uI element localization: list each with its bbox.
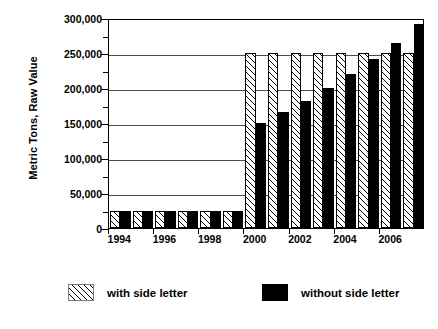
bar-group — [222, 20, 245, 228]
x-tick-mark — [108, 229, 109, 234]
legend-label: with side letter — [107, 287, 188, 299]
x-tick-mark — [198, 229, 199, 234]
x-tick-mark — [153, 229, 154, 234]
bar-group — [380, 20, 403, 228]
bar-without-side-letter-2004 — [346, 74, 356, 228]
bar-group — [199, 20, 222, 228]
bar-group — [402, 20, 425, 228]
bar-group — [312, 20, 335, 228]
bar-without-side-letter-2000 — [256, 123, 266, 228]
legend-label: without side letter — [301, 287, 399, 299]
bar-with-side-letter-1997 — [178, 211, 188, 229]
bar-without-side-letter-2002 — [301, 101, 311, 228]
bar-group — [109, 20, 132, 228]
x-tick-label: 2000 — [243, 233, 266, 245]
x-tick-label: 1998 — [198, 233, 221, 245]
x-tick-label: 2002 — [288, 233, 311, 245]
bar-group — [154, 20, 177, 228]
x-tick-mark — [289, 229, 290, 234]
bar-without-side-letter-2005 — [369, 59, 379, 228]
hatch-swatch-icon — [68, 284, 94, 301]
bar-group — [335, 20, 358, 228]
y-tick-label: 100,000 — [30, 153, 102, 165]
bar-without-side-letter-1995 — [143, 211, 153, 229]
bar-with-side-letter-1998 — [200, 211, 210, 229]
x-tick-label: 2004 — [333, 233, 356, 245]
bar-without-side-letter-1994 — [120, 211, 130, 229]
bar-without-side-letter-1999 — [233, 211, 243, 229]
x-tick-label: 2006 — [378, 233, 401, 245]
bar-without-side-letter-1997 — [188, 211, 198, 229]
y-tick-label: 50,000 — [30, 188, 102, 200]
bar-chart-figure: Metric Tons, Raw Value 050,000100,000150… — [0, 0, 438, 329]
y-tick-label: 200,000 — [30, 83, 102, 95]
y-tick-label: 300,000 — [30, 13, 102, 25]
bar-series-layer — [109, 20, 423, 228]
bar-with-side-letter-2002 — [291, 53, 301, 228]
bar-with-side-letter-1996 — [155, 211, 165, 229]
bar-with-side-letter-2006 — [381, 53, 391, 228]
bar-with-side-letter-1999 — [223, 211, 233, 229]
x-axis-labels: 1994199619982000200220042006 — [0, 233, 438, 249]
plot-area — [108, 19, 424, 229]
chart-legend: with side letter without side letter — [0, 284, 438, 316]
bar-group — [177, 20, 200, 228]
x-tick-mark — [243, 229, 244, 234]
bar-without-side-letter-2006 — [391, 43, 401, 229]
bar-without-side-letter-2007 — [414, 24, 424, 228]
y-tick-label: 250,000 — [30, 48, 102, 60]
bar-group — [267, 20, 290, 228]
x-tick-mark — [334, 229, 335, 234]
x-tick-label: 1996 — [153, 233, 176, 245]
solid-swatch-icon — [262, 284, 288, 301]
legend-item-without-side-letter: without side letter — [262, 284, 399, 301]
bar-group — [132, 20, 155, 228]
bar-with-side-letter-2000 — [245, 53, 255, 228]
bar-without-side-letter-2001 — [278, 112, 288, 228]
bar-with-side-letter-1994 — [110, 211, 120, 229]
bar-without-side-letter-2003 — [323, 88, 333, 228]
bar-without-side-letter-1998 — [211, 211, 221, 229]
bar-without-side-letter-1996 — [165, 211, 175, 229]
bar-with-side-letter-2004 — [336, 53, 346, 228]
legend-item-with-side-letter: with side letter — [68, 284, 188, 301]
bar-group — [290, 20, 313, 228]
y-tick-label: 150,000 — [30, 118, 102, 130]
bar-group — [244, 20, 267, 228]
bar-with-side-letter-1995 — [133, 211, 143, 229]
bar-group — [357, 20, 380, 228]
bar-with-side-letter-2003 — [313, 53, 323, 228]
bar-with-side-letter-2005 — [358, 53, 368, 228]
bar-with-side-letter-2007 — [403, 53, 413, 228]
bar-with-side-letter-2001 — [268, 53, 278, 228]
x-tick-label: 1994 — [108, 233, 131, 245]
x-tick-mark — [379, 229, 380, 234]
